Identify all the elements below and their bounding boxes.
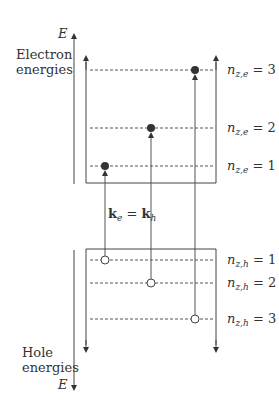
electron-level-label-2: nz,e = 2 xyxy=(227,120,276,140)
electron-level-label-1: nz,e = 1 xyxy=(227,158,276,178)
electron-level-label-3: nz,e = 3 xyxy=(227,62,276,82)
hole-circle-3 xyxy=(191,315,199,323)
axis-label-e-bottom: E xyxy=(58,377,68,392)
electron-dot-3 xyxy=(191,66,199,74)
hole-circle-2 xyxy=(147,279,155,287)
electron-dot-2 xyxy=(147,124,155,132)
electron-label-line2: energies xyxy=(16,62,73,77)
hole-level-label-2: nz,h = 2 xyxy=(227,275,276,295)
k-conservation-label: ke = kh xyxy=(108,206,156,226)
electron-dot-1 xyxy=(101,162,109,170)
axis-label-e-top: E xyxy=(58,26,68,41)
hole-level-label-1: nz,h = 1 xyxy=(227,252,276,272)
electron-label-line1: Electron xyxy=(16,47,72,62)
hole-level-label-3: nz,h = 3 xyxy=(227,311,276,331)
hole-label-line2: energies xyxy=(22,360,79,375)
hole-circle-1 xyxy=(101,256,109,264)
hole-label-line1: Hole xyxy=(22,345,53,360)
